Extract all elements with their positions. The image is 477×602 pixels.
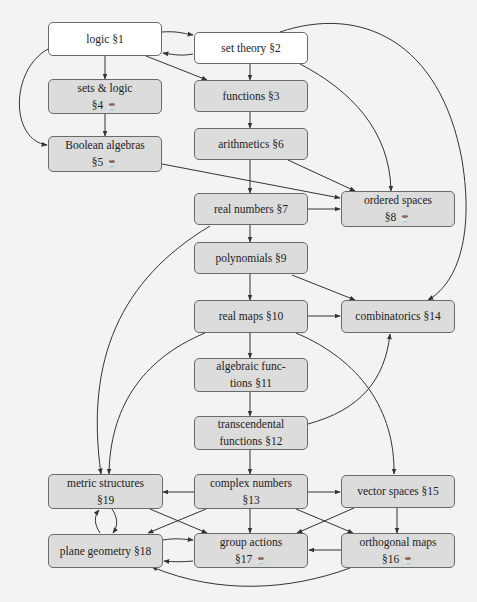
node-label: real maps §10 [219,308,284,325]
node-transcendental-functions[interactable]: transcendental functions §12 [194,416,308,450]
node-label: group actions [220,534,282,551]
node-plane-geometry[interactable]: plane geometry §18 [48,534,163,568]
node-label: polynomials §9 [215,250,286,267]
node-label: Boolean algebras [65,137,145,154]
edge-9-14 [292,275,355,300]
edge-6-8 [288,160,355,191]
node-section: §4 [92,99,104,111]
node-real-maps[interactable]: real maps §10 [194,300,308,333]
node-section: §13 [242,492,259,509]
edge-19-18 [112,509,117,533]
node-section: §8 [385,211,397,223]
node-section: §17 [235,553,252,565]
coffee-icon: ☕ [402,554,414,565]
node-label: logic §1 [86,31,123,48]
node-label: ordered spaces [364,192,432,209]
edge-1-5 [19,49,48,145]
edge-18-17 [163,539,193,540]
node-real-numbers[interactable]: real numbers §7 [194,193,308,225]
node-ordered-spaces[interactable]: ordered spaces §8☕ [341,191,455,227]
node-functions[interactable]: functions §3 [194,80,308,112]
coffee-icon: ☕ [106,100,118,111]
edge-2-1 [163,53,193,55]
edge-10-19 [109,333,205,474]
edge-18-19 [95,510,100,533]
edge-15-17 [297,508,354,533]
node-label: algebraic func- [216,358,285,375]
node-complex-numbers[interactable]: complex numbers §13 [194,474,308,509]
node-orthogonal-maps[interactable]: orthogonal maps §16☕ [341,533,455,568]
node-label: set theory §2 [221,40,280,57]
node-algebraic-functions[interactable]: algebraic func- tions §11 [194,358,308,392]
node-label: real numbers §7 [214,201,288,218]
edge-16-18 [152,567,350,586]
node-label-2: functions §12 [220,433,283,450]
node-label: orthogonal maps [360,534,437,551]
node-label: arithmetics §6 [218,136,283,153]
node-label: functions §3 [222,88,279,105]
node-label: vector spaces §15 [357,483,439,500]
node-label: combinatorics §14 [355,308,440,325]
node-label: metric structures [67,475,144,492]
node-section: §16 [382,553,399,565]
node-set-theory[interactable]: set theory §2 [194,32,308,64]
node-combinatorics[interactable]: combinatorics §14 [341,300,455,333]
node-polynomials[interactable]: polynomials §9 [194,242,308,274]
edge-12-14 [308,334,390,424]
node-boolean-algebras[interactable]: Boolean algebras §5☕ [48,136,162,172]
coffee-icon: ☕ [106,157,118,168]
node-section: §5 [92,156,104,168]
node-label: sets & logic [78,80,133,97]
node-label-2: tions §11 [230,375,272,392]
coffee-icon: ☕ [255,554,267,565]
edge-17-18 [164,561,193,562]
node-sets-and-logic[interactable]: sets & logic §4☕ [48,79,162,114]
node-label: complex numbers [210,475,292,492]
node-metric-structures[interactable]: metric structures §19 [48,474,163,509]
node-label: plane geometry §18 [60,543,151,560]
node-vector-spaces[interactable]: vector spaces §15 [341,475,455,508]
edge-1-2 [162,32,193,35]
node-logic[interactable]: logic §1 [48,22,162,56]
node-arithmetics[interactable]: arithmetics §6 [194,128,308,160]
node-group-actions[interactable]: group actions §17☕ [194,533,308,568]
node-label: transcendental [218,416,284,433]
edge-10-15 [296,333,394,474]
node-section: §19 [97,492,114,509]
coffee-icon: ☕ [399,212,411,223]
